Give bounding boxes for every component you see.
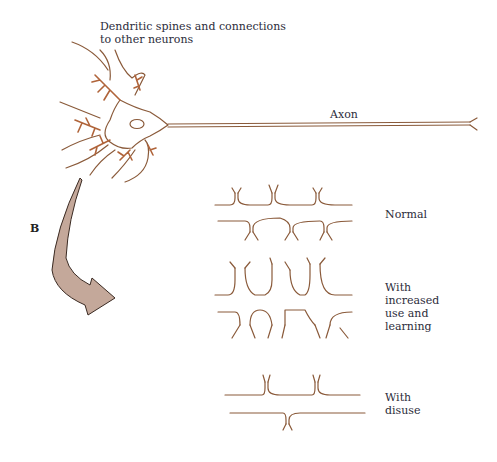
dendritic-label-line1: Dendritic spines and connections	[100, 20, 286, 33]
normal-label-line: Normal	[385, 208, 427, 221]
dendritic-spines-label: Dendritic spines and connections to othe…	[100, 20, 286, 46]
disuse-label-line1: With	[385, 391, 420, 404]
panel-letter: B	[30, 222, 39, 235]
axon-label: Axon	[330, 108, 358, 121]
increased-label-line3: use and	[385, 307, 439, 320]
nucleus	[130, 120, 144, 129]
increased-use-synapses	[215, 258, 352, 338]
neuron	[60, 42, 477, 182]
neuron-diagram	[0, 0, 497, 462]
axon	[168, 122, 470, 124]
increased-use-label: With increased use and learning	[385, 281, 439, 333]
disuse-synapses	[225, 375, 365, 430]
disuse-label: With disuse	[385, 391, 420, 417]
curved-arrow-icon	[52, 178, 115, 315]
increased-label-line1: With	[385, 281, 439, 294]
increased-label-line2: increased	[385, 294, 439, 307]
disuse-label-line2: disuse	[385, 404, 420, 417]
increased-label-line4: learning	[385, 320, 439, 333]
dendritic-label-line2: to other neurons	[100, 33, 286, 46]
normal-label: Normal	[385, 208, 427, 221]
normal-synapses	[215, 185, 352, 240]
